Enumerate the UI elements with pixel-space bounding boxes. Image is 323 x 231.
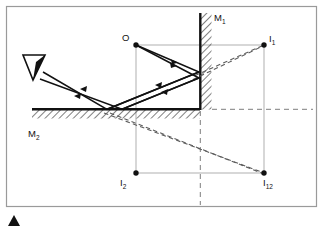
label-mirror-2: M2 xyxy=(28,128,40,141)
diagram-canvas: M1 M2 O I1 I2 I12 xyxy=(0,0,323,231)
virtual-ray-i12-b xyxy=(110,113,264,174)
page-corner-triangle-icon xyxy=(8,215,20,226)
ray-arrow-5 xyxy=(155,82,162,88)
point-dot-image-1 xyxy=(261,42,266,47)
label-image-2: I2 xyxy=(120,177,127,190)
mirror-m2-hatching xyxy=(32,110,200,119)
ray-paths xyxy=(40,45,199,109)
diagram-labels: M1 M2 O I1 I2 I12 xyxy=(28,12,276,190)
virtual-rays-to-image-12 xyxy=(104,113,264,174)
label-image-12: I12 xyxy=(263,177,273,190)
ray-arrow-6 xyxy=(161,89,168,95)
ray-arrow-4 xyxy=(74,93,81,99)
ray-arrow-3 xyxy=(80,86,87,92)
mirror-m2 xyxy=(32,109,200,118)
ray-path-upper xyxy=(43,45,199,109)
mirror-m1 xyxy=(200,13,211,110)
optics-diagram-figure: M1 M2 O I1 I2 I12 xyxy=(0,0,323,231)
point-dot-image-2 xyxy=(133,170,138,175)
label-image-1: I1 xyxy=(269,33,276,46)
ray-path-secondary xyxy=(107,72,199,109)
axis-dashed-lines xyxy=(200,109,313,205)
point-dot-object xyxy=(133,42,138,47)
label-object: O xyxy=(122,32,129,43)
point-dot-image-12 xyxy=(261,170,266,175)
label-mirror-1: M1 xyxy=(214,12,226,25)
observer-eye xyxy=(23,55,45,80)
ray-path-lower xyxy=(40,45,199,109)
mirror-m1-hatching xyxy=(201,13,212,110)
